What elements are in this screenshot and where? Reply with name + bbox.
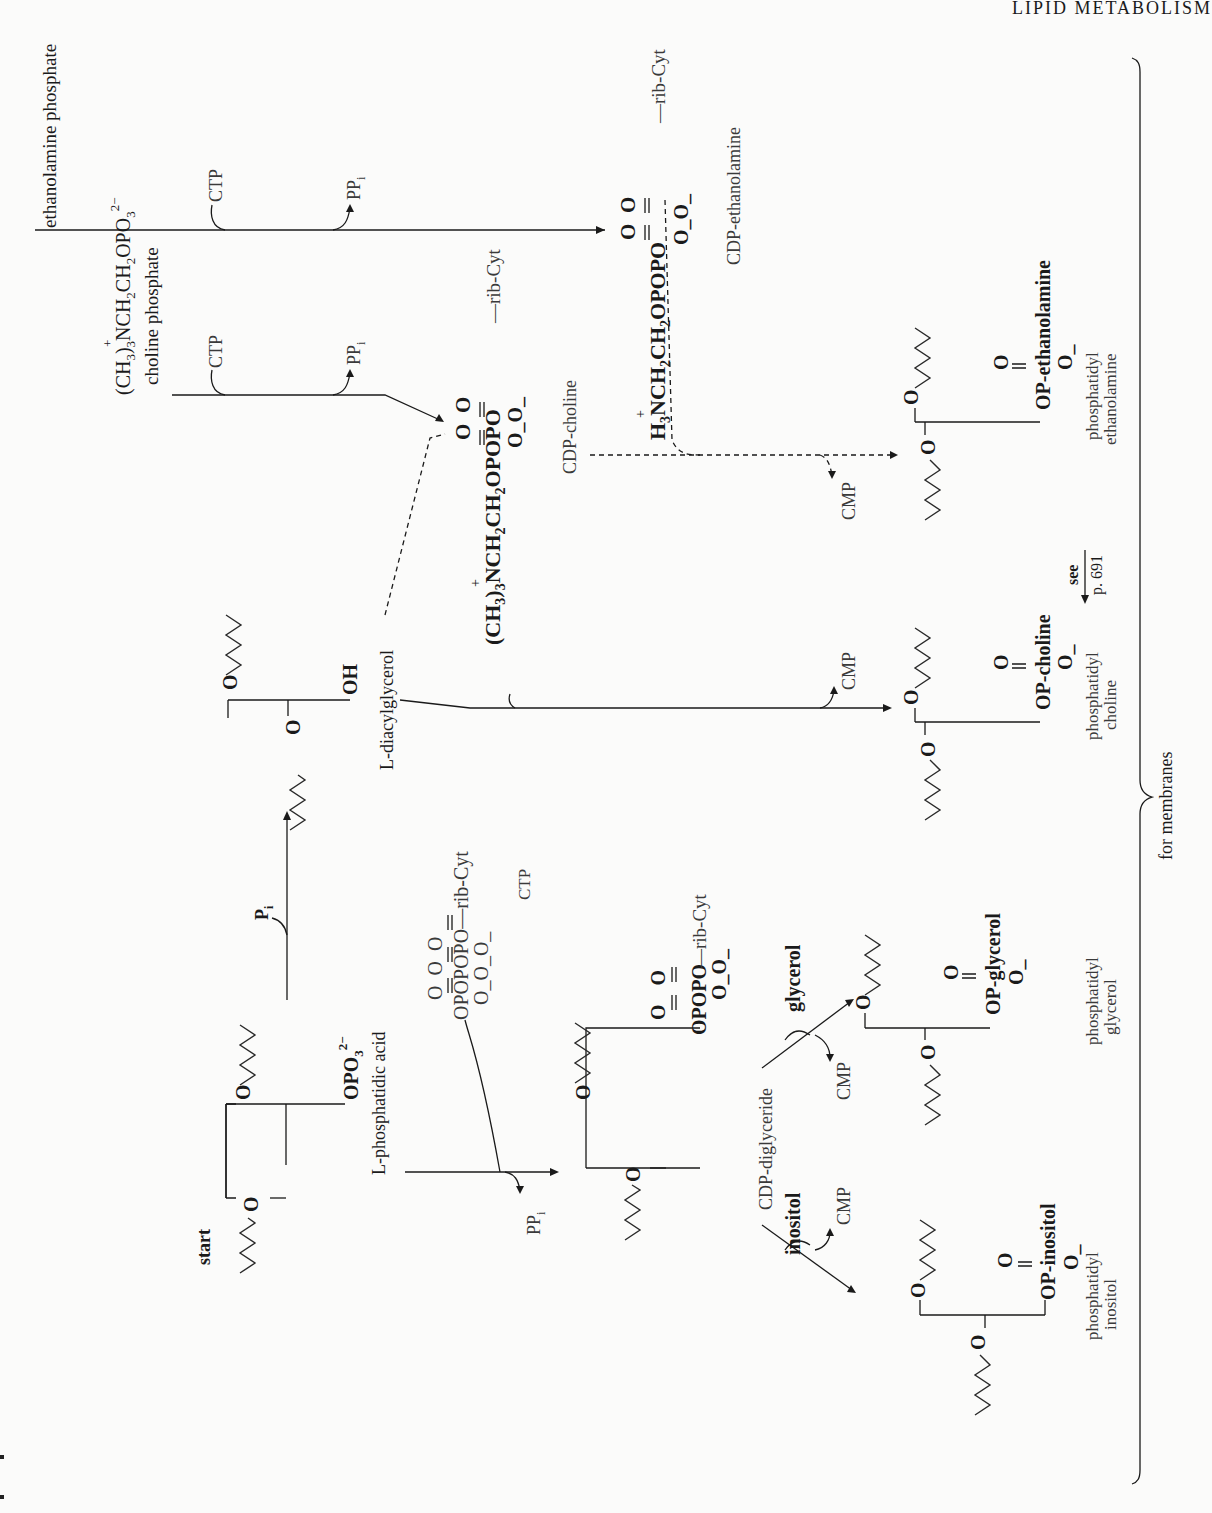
svg-text:O_O_: O_O_	[708, 948, 730, 1000]
product-phosphatidyl-ethanolamine: O O O OP-ethanolamine O_ phosphatidyl et…	[900, 260, 1120, 520]
svg-text:O: O	[900, 389, 922, 405]
svg-text:O_: O_	[1054, 343, 1076, 370]
svg-text:OPOPO: OPOPO	[688, 964, 710, 1035]
page-mark	[0, 1495, 4, 1499]
svg-text:O_: O_	[1060, 1243, 1082, 1270]
running-head: LIPID METABOLISM	[1012, 0, 1212, 18]
svg-text:O O: O O	[647, 963, 669, 1020]
svg-text:O: O	[622, 1166, 644, 1182]
ppi-label-1: PPi	[524, 1211, 548, 1235]
svg-text:O: O	[572, 1084, 594, 1100]
svg-text:O: O	[616, 197, 640, 213]
ethanolamine-phosphate-label: ethanolamine phosphate	[39, 44, 60, 228]
phosphatidic-acid: O O OPO32− L-phosphatidic acid	[226, 1025, 389, 1273]
arrowhead-icon	[346, 369, 354, 377]
svg-text:O: O	[994, 1252, 1016, 1268]
svg-text:O: O	[451, 424, 475, 440]
svg-text:O: O	[616, 224, 640, 240]
svg-text:OPO32−: OPO32−	[335, 1036, 366, 1100]
svg-text:O: O	[940, 964, 962, 980]
arrowhead-icon	[283, 811, 291, 820]
arrowhead-icon	[596, 226, 605, 234]
svg-text:O: O	[232, 1084, 254, 1100]
svg-text:OP-choline: OP-choline	[1032, 614, 1054, 710]
choline-phosphate-formula: (CH3)3NCH2CH2OPO32− +	[100, 197, 138, 395]
arrowhead-icon	[890, 451, 898, 459]
svg-text:O: O	[907, 1282, 929, 1298]
svg-text:see: see	[1064, 565, 1081, 585]
dashed-path	[385, 434, 445, 615]
svg-text:CTP: CTP	[515, 869, 534, 900]
product-phosphatidyl-inositol: O O O OP-inositol O_ phosphatidyl inosit…	[907, 1203, 1120, 1415]
svg-text:O: O	[451, 397, 475, 413]
arrowhead-icon	[828, 471, 836, 479]
svg-text:L-diacylglycerol: L-diacylglycerol	[377, 650, 397, 770]
cmp-label-3: CMP	[839, 482, 859, 520]
svg-text:—rib-Cyt: —rib-Cyt	[648, 48, 669, 124]
svg-text:O: O	[990, 354, 1012, 370]
svg-text:O: O	[917, 1044, 939, 1060]
cdp-ethanolamine-label: CDP-ethanolamine	[724, 127, 744, 265]
arrowhead-icon	[346, 204, 354, 212]
ppi-label-3: PPi	[344, 341, 368, 365]
ctp-label-1: CTP	[206, 169, 226, 202]
diacylglycerol: O O OH L-diacylglycerol	[219, 615, 397, 830]
for-membranes-label: for membranes	[1156, 752, 1176, 860]
svg-text:PPi: PPi	[344, 341, 368, 365]
cdp-choline-label: CDP-choline	[560, 380, 580, 474]
svg-text:PPi: PPi	[344, 176, 368, 200]
arrowhead-icon	[847, 1285, 856, 1293]
ctp-donor: OOO OPOPOPO—rib-Cyt O_O_O_ CTP	[424, 851, 534, 1020]
svg-text:+: +	[100, 340, 115, 347]
svg-text:OP-glycerol: OP-glycerol	[982, 913, 1005, 1015]
cdp-ethanolamine: O O H3NCH2CH2OPOPO + —rib-Cyt O_O_ CDP-e…	[616, 48, 744, 440]
inositol-label: inositol	[782, 1192, 804, 1255]
svg-text:O: O	[967, 1334, 989, 1350]
svg-text:(CH3)3NCH2CH2OPO32−: (CH3)3NCH2CH2OPO32−	[107, 197, 138, 395]
svg-text:inositol: inositol	[1101, 1279, 1120, 1330]
cmp-label-1: CMP	[834, 1062, 854, 1100]
svg-text:phosphatidyl: phosphatidyl	[1083, 957, 1102, 1045]
svg-text:+: +	[633, 410, 648, 418]
arrowhead-icon	[830, 686, 838, 694]
svg-text:p. 691: p. 691	[1088, 555, 1106, 595]
svg-text:O: O	[917, 439, 939, 455]
svg-text:OH: OH	[339, 663, 361, 695]
ctp-label-2: CTP	[206, 335, 226, 368]
svg-text:O_: O_	[1005, 958, 1027, 985]
svg-text:O: O	[219, 674, 241, 690]
cdp-ethanolamine-charges: O_O_	[670, 193, 692, 245]
svg-text:H3NCH2CH2OPOPO: H3NCH2CH2OPOPO	[645, 242, 673, 440]
glycerol-label: glycerol	[782, 944, 805, 1012]
cdp-choline-in-curve	[509, 694, 515, 708]
svg-text:phosphatidyl: phosphatidyl	[1083, 652, 1102, 740]
svg-text:OOO: OOO	[424, 927, 446, 1000]
inositol-arrow	[762, 1225, 852, 1290]
cdp-choline: O O (CH3)3NCH2CH2OPOPO + —rib-Cyt O_O_ C…	[451, 248, 580, 645]
ppi-label-2: PPi	[344, 176, 368, 200]
svg-text:OP-ethanolamine: OP-ethanolamine	[1032, 260, 1054, 410]
arrowhead-icon	[826, 1054, 834, 1062]
lipid-pathway-diagram: LIPID METABOLISM ethanolamine phosphate …	[0, 0, 1212, 1513]
ctp-in-curve	[465, 1020, 500, 1172]
svg-text:O: O	[990, 654, 1012, 670]
arrowhead-icon	[516, 1186, 524, 1194]
arrowhead-icon	[550, 1168, 559, 1176]
svg-text:O: O	[240, 1196, 262, 1212]
svg-text:phosphatidyl: phosphatidyl	[1083, 1252, 1102, 1340]
svg-text:O_: O_	[1054, 643, 1076, 670]
svg-text:+: +	[468, 579, 483, 587]
ctp-curve	[211, 205, 225, 230]
svg-text:phosphatidyl: phosphatidyl	[1083, 352, 1102, 440]
arrowhead-icon	[826, 1228, 834, 1236]
svg-text:O: O	[282, 719, 304, 735]
svg-text:glycerol: glycerol	[1101, 979, 1120, 1035]
start-label: start	[194, 1229, 214, 1265]
svg-text:O_O_O_: O_O_O_	[470, 931, 492, 1005]
product-phosphatidyl-choline: O O O OP-choline O_ phosphatidyl choline	[900, 614, 1120, 820]
choline-transfer-arrow	[400, 700, 888, 708]
svg-text:O: O	[852, 994, 874, 1010]
svg-text:OP-inositol: OP-inositol	[1037, 1203, 1059, 1300]
svg-text:—rib-Cyt: —rib-Cyt	[689, 893, 710, 969]
cdp-diglyceride: O O O O OPOPO —rib-Cyt O_O_ CDP-diglycer…	[572, 893, 776, 1240]
